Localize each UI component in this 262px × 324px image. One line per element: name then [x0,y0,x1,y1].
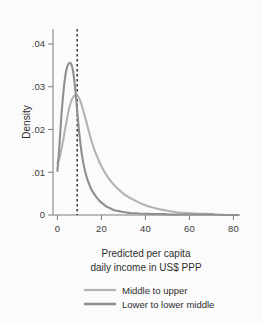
y-tick-label: .03 [32,81,45,92]
legend-label-lower-to-lower-middle: Lower to lower middle [122,299,214,310]
x-tick-label: 60 [184,223,195,234]
y-tick-label: 0 [40,209,45,220]
density-chart-figure: 0.01.02.03.04 Density 020406080 Predicte… [0,0,262,324]
y-tick-label: .02 [32,124,45,135]
y-axis-title: Density [21,105,32,138]
legend-label-middle-to-upper: Middle to upper [122,285,187,296]
y-tick-label: .01 [32,167,45,178]
x-tick-label: 20 [96,223,107,234]
y-tick-label: .04 [32,38,45,49]
chart-canvas: 0.01.02.03.04 Density 020406080 Predicte… [0,0,262,324]
x-tick-label: 0 [55,223,60,234]
x-tick-label: 80 [228,223,239,234]
x-tick-label: 40 [140,223,151,234]
x-axis-title-line1: Predicted per capita [102,248,191,259]
x-axis-title-line2: daily income in US$ PPP [90,262,201,273]
